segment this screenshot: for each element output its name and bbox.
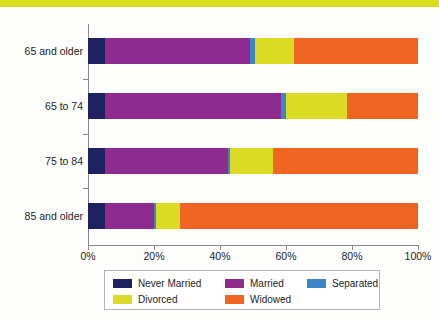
stacked-bar[interactable] [88, 38, 418, 64]
category-label: 85 and older [3, 210, 83, 222]
x-axis-tick-label: 100% [396, 250, 439, 262]
category-label: 65 to 74 [3, 100, 83, 112]
legend-label: Married [250, 278, 284, 289]
x-axis-tick [418, 245, 419, 250]
bar-segment-divorced[interactable] [255, 38, 295, 64]
legend-label: Widowed [250, 294, 291, 305]
bar-segment-widowed[interactable] [347, 93, 418, 119]
bar-row [88, 93, 418, 119]
legend-row: DivorcedWidowed [113, 291, 373, 307]
category-label: 65 and older [3, 45, 83, 57]
bar-segment-divorced[interactable] [156, 203, 181, 229]
y-axis-labels: 65 and older65 to 7475 to 8485 and older [0, 24, 83, 243]
stacked-bar[interactable] [88, 148, 418, 174]
stacked-bar[interactable] [88, 203, 418, 229]
x-axis-tick [286, 245, 287, 250]
bar-segment-never-married[interactable] [88, 38, 105, 64]
bar-segment-never-married[interactable] [88, 148, 105, 174]
bar-row [88, 203, 418, 229]
x-axis-line [88, 245, 419, 246]
legend-swatch-icon [113, 295, 132, 304]
legend-item-divorced[interactable]: Divorced [113, 294, 177, 305]
x-axis-tick-label: 0% [66, 250, 110, 262]
x-axis-tick-label: 80% [330, 250, 374, 262]
bar-row [88, 148, 418, 174]
x-axis-tick-label: 40% [198, 250, 242, 262]
legend-item-widowed[interactable]: Widowed [225, 294, 291, 305]
bar-segment-married[interactable] [105, 93, 282, 119]
x-axis-labels: 0%20%40%60%80%100% [0, 250, 439, 264]
bar-segment-widowed[interactable] [273, 148, 418, 174]
stacked-bar[interactable] [88, 93, 418, 119]
legend-swatch-icon [225, 279, 244, 288]
x-axis-tick [88, 245, 89, 250]
bar-segment-divorced[interactable] [230, 148, 273, 174]
legend-item-married[interactable]: Married [225, 278, 284, 289]
y-axis-tick [83, 79, 88, 80]
bar-row [88, 38, 418, 64]
bar-segment-married[interactable] [105, 148, 229, 174]
category-label: 75 to 84 [3, 155, 83, 167]
bar-segment-widowed[interactable] [180, 203, 418, 229]
x-axis-tick [220, 245, 221, 250]
x-axis-tick [154, 245, 155, 250]
x-axis-tick-label: 60% [264, 250, 308, 262]
bar-segment-widowed[interactable] [294, 38, 418, 64]
y-axis-tick [83, 134, 88, 135]
plot-area [88, 24, 418, 243]
legend-swatch-icon [307, 279, 326, 288]
legend-item-separated[interactable]: Separated [307, 278, 378, 289]
legend-swatch-icon [113, 279, 132, 288]
bar-segment-married[interactable] [105, 203, 155, 229]
y-axis-tick [83, 188, 88, 189]
legend-label: Divorced [138, 294, 177, 305]
bar-segment-divorced[interactable] [286, 93, 347, 119]
bar-segment-never-married[interactable] [88, 203, 105, 229]
title-band [0, 0, 439, 7]
legend-label: Never Married [138, 278, 201, 289]
stacked-bar-chart: 65 and older65 to 7475 to 8485 and older… [0, 0, 439, 320]
legend-row: Never MarriedMarriedSeparated [113, 275, 373, 291]
chart-legend: Never MarriedMarriedSeparatedDivorcedWid… [104, 270, 380, 310]
legend-swatch-icon [225, 295, 244, 304]
x-axis-tick-label: 20% [132, 250, 176, 262]
bar-segment-never-married[interactable] [88, 93, 105, 119]
bar-segment-married[interactable] [105, 38, 250, 64]
x-axis-tick [352, 245, 353, 250]
legend-item-never-married[interactable]: Never Married [113, 278, 201, 289]
legend-label: Separated [332, 278, 378, 289]
